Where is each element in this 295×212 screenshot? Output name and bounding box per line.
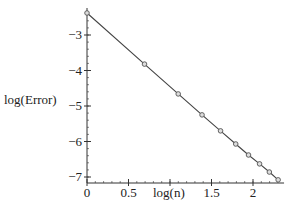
y-tick-label: −7 [62, 170, 82, 183]
x-axis-label: log(n) [153, 186, 185, 199]
y-tick-label: −3 [62, 28, 82, 41]
x-tick-label: 1.5 [197, 186, 227, 199]
data-point-marker [276, 178, 281, 183]
data-point-marker [218, 129, 223, 134]
y-tick-label: −6 [62, 135, 82, 148]
data-point-marker [246, 153, 251, 158]
data-point-marker [142, 62, 147, 67]
data-point-marker [85, 11, 90, 16]
y-axis-label: log(Error) [4, 93, 57, 106]
data-point-marker [200, 113, 205, 118]
data-point-marker [233, 142, 238, 147]
y-tick-label: −4 [62, 64, 82, 77]
x-tick-label: 0.5 [114, 186, 144, 199]
data-point-marker [176, 92, 181, 97]
data-point-marker [267, 170, 272, 175]
x-tick-label: 0 [72, 186, 102, 199]
data-series [85, 11, 281, 182]
y-tick-label: −5 [62, 99, 82, 112]
x-tick-label: 2 [238, 186, 268, 199]
data-point-marker [257, 162, 262, 167]
